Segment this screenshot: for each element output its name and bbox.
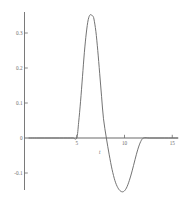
- y-tick-label: 0.3: [16, 30, 23, 36]
- chart-canvas: -0.100.10.20.351015t: [0, 0, 189, 209]
- chart-figure: -0.100.10.20.351015t: [0, 0, 189, 209]
- x-tick-label: 15: [170, 140, 176, 146]
- x-tick-label: 10: [122, 140, 128, 146]
- x-tick-label: 5: [75, 140, 78, 146]
- y-tick-label: 0.1: [16, 100, 23, 106]
- y-tick-label: -0.1: [14, 170, 23, 176]
- y-tick-label: 0.2: [16, 65, 23, 71]
- y-tick-label: 0: [20, 135, 23, 141]
- chart-background: [0, 0, 189, 209]
